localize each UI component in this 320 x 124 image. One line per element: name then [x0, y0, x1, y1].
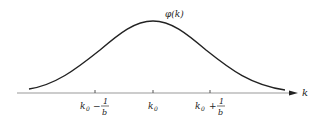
svg-text:k: k: [80, 101, 85, 111]
tick-label-center: k 0: [148, 101, 158, 112]
svg-text:0: 0: [154, 105, 158, 112]
svg-text:0: 0: [201, 105, 205, 112]
axis-arrow-icon: [289, 91, 298, 96]
gaussian-diagram: k φ(k) k 0 − 1 b k 0 k 0 + 1 b: [0, 0, 320, 124]
svg-text:b: b: [102, 108, 107, 117]
svg-text:+: +: [209, 101, 217, 111]
svg-text:0: 0: [86, 105, 90, 112]
curve-label: φ(k): [165, 9, 184, 19]
phi-curve: [29, 21, 285, 90]
svg-text:−: −: [93, 101, 101, 111]
svg-text:k: k: [195, 101, 200, 111]
svg-text:k: k: [148, 101, 153, 111]
tick-label-right: k 0 + 1 b: [195, 97, 225, 117]
svg-text:1: 1: [219, 97, 224, 106]
svg-text:1: 1: [103, 97, 108, 106]
axis-label: k: [302, 87, 308, 98]
svg-text:b: b: [218, 108, 223, 117]
tick-label-left: k 0 − 1 b: [80, 97, 109, 117]
